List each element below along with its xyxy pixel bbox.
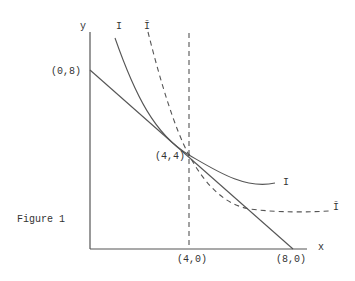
- point-tangency-label: (4,4): [155, 151, 185, 162]
- point-x-intercept-label: (8,0): [276, 254, 306, 265]
- point-x-mid-label: (4,0): [177, 254, 207, 265]
- tangency-point: [188, 154, 190, 156]
- curve-i-end-label: I: [283, 177, 289, 188]
- figure-diagram: y I Ī (0,8) (4,4) I Ī x (4,0) (8,0) Figu…: [0, 0, 355, 281]
- indifference-curve-dashed: [148, 32, 330, 212]
- y-axis-label: y: [80, 21, 86, 32]
- point-y-intercept-label: (0,8): [51, 66, 81, 77]
- curve-ibar-top-label: Ī: [144, 20, 150, 32]
- curve-i-top-label: I: [116, 21, 122, 32]
- x-axis-label: x: [318, 242, 324, 253]
- curve-ibar-end-label: Ī: [333, 201, 339, 213]
- budget-line: [90, 70, 293, 249]
- figure-caption: Figure 1: [17, 214, 65, 225]
